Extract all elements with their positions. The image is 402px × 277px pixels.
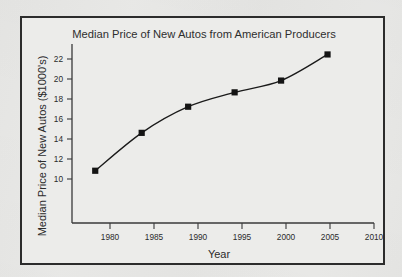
y-tick-label-18: 18 bbox=[54, 94, 64, 104]
y-tick-label-16: 16 bbox=[54, 114, 64, 124]
y-tick-label-20: 20 bbox=[54, 74, 64, 84]
figure-canvas: Median Price of New Autos from American … bbox=[0, 0, 402, 277]
y-tick-label-10: 10 bbox=[54, 174, 64, 184]
x-tick-label-1980: 1980 bbox=[101, 232, 120, 242]
y-tick-label-12: 12 bbox=[54, 154, 64, 164]
x-axis-ticks bbox=[110, 223, 374, 229]
y-tick-label-22: 22 bbox=[54, 54, 64, 64]
x-tick-label-2000: 2000 bbox=[277, 232, 296, 242]
y-axis-title: Median Price of New Autos ($1000's) bbox=[36, 56, 48, 237]
x-tick-label-2010: 2010 bbox=[365, 232, 384, 242]
chart-frame: Median Price of New Autos from American … bbox=[20, 16, 385, 265]
y-axis-ticks bbox=[67, 59, 72, 179]
x-tick-label-1985: 1985 bbox=[145, 232, 164, 242]
x-axis-tick-labels: 1980 1985 1990 1995 2000 2005 2010 bbox=[101, 232, 384, 242]
data-point-1990 bbox=[185, 104, 191, 110]
data-point-2005 bbox=[324, 51, 330, 57]
data-point-2000 bbox=[278, 77, 284, 83]
data-point-1980 bbox=[92, 168, 98, 174]
series-line-median-price bbox=[95, 54, 327, 170]
y-tick-label-14: 14 bbox=[54, 134, 64, 144]
series-markers bbox=[92, 51, 331, 173]
x-tick-label-1990: 1990 bbox=[189, 232, 208, 242]
chart-title: Median Price of New Autos from American … bbox=[72, 28, 336, 40]
data-point-1985 bbox=[139, 130, 145, 136]
x-tick-label-1995: 1995 bbox=[233, 232, 252, 242]
data-point-1995 bbox=[232, 89, 238, 95]
y-axis-tick-labels: 22 20 18 16 14 12 10 bbox=[54, 54, 64, 184]
line-chart: Median Price of New Autos from American … bbox=[22, 18, 387, 267]
x-tick-label-2005: 2005 bbox=[321, 232, 340, 242]
x-axis-title: Year bbox=[208, 248, 231, 260]
